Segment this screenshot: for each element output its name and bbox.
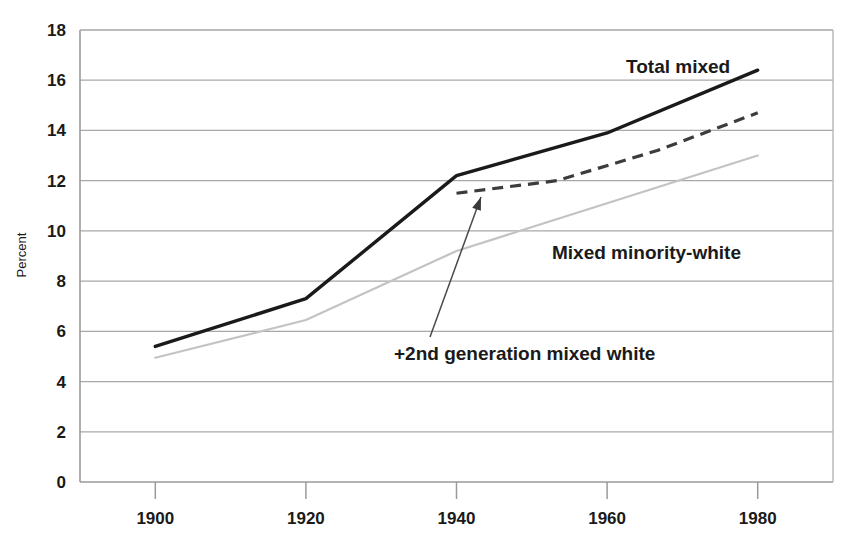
y-tick-label-2: 2 — [57, 423, 66, 442]
y-tick-label-4: 4 — [57, 373, 67, 392]
x-tick-label-1920: 1920 — [287, 509, 325, 528]
mixed-minority-white-label: Mixed minority-white — [552, 242, 741, 263]
x-tick-label-1900: 1900 — [136, 509, 174, 528]
y-tick-label-12: 12 — [47, 172, 66, 191]
x-tick-label-1940: 1940 — [438, 509, 476, 528]
line-chart: 024681012141618 19001920194019601980 Tot… — [0, 0, 846, 535]
chart-canvas: 024681012141618 19001920194019601980 Tot… — [0, 0, 846, 535]
y-axis-title: Percent — [14, 232, 29, 277]
y-tick-label-10: 10 — [47, 222, 66, 241]
y-tick-label-8: 8 — [57, 272, 66, 291]
y-tick-label-16: 16 — [47, 71, 66, 90]
y-tick-label-0: 0 — [57, 473, 66, 492]
y-tick-label-18: 18 — [47, 21, 66, 40]
x-tick-label-1980: 1980 — [739, 509, 777, 528]
y-tick-label-14: 14 — [47, 121, 66, 140]
y-tick-label-6: 6 — [57, 322, 66, 341]
total-mixed-label: Total mixed — [626, 56, 730, 77]
second-generation-label: +2nd generation mixed white — [394, 343, 655, 364]
x-tick-label-1960: 1960 — [588, 509, 626, 528]
